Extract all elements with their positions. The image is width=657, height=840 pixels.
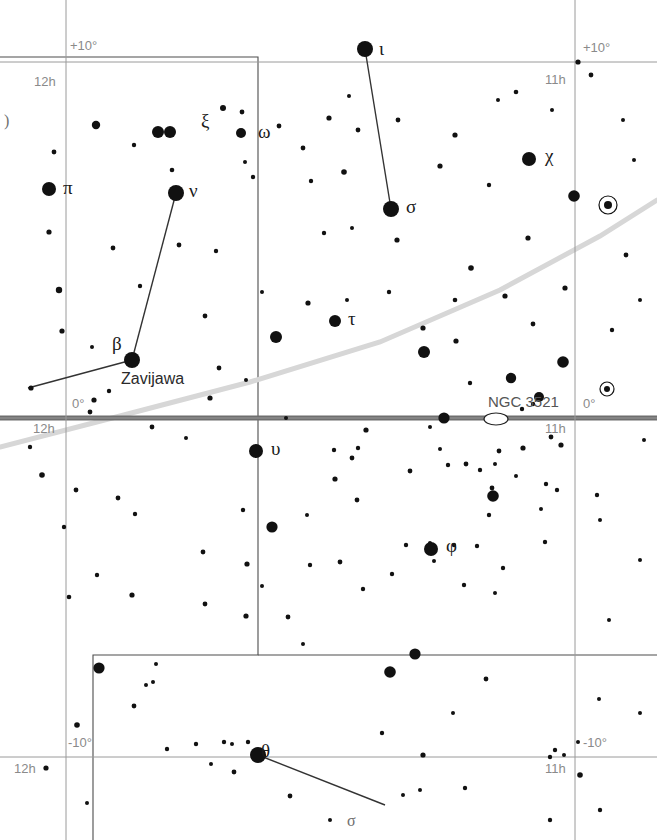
field-star [28,385,33,390]
field-star [244,561,249,566]
field-star [277,124,282,129]
field-star [493,462,497,466]
field-star [642,438,646,442]
field-star [475,544,479,548]
grid-label-dec-plus10-left: +10° [70,38,97,53]
constellation-line [258,755,385,805]
field-star [562,753,566,757]
field-star [555,488,559,492]
field-star [138,284,142,288]
field-star [207,395,212,400]
field-star [576,740,580,744]
field-star [484,677,489,682]
field-star [487,513,491,517]
field-star [595,493,599,497]
field-star [607,618,611,622]
variable-star-dot [604,386,610,392]
field-star [111,246,116,251]
field-star [438,447,442,451]
field-star [506,373,516,383]
star-chart: +10°+10°12h11h0°0°12h11h-10°-10°12h11h ι… [0,0,657,840]
field-star [401,793,405,797]
field-star [553,748,557,752]
named-star-chi [522,152,536,166]
field-star [59,328,64,333]
field-star [478,468,482,472]
field-star [577,772,583,778]
field-star [384,666,396,678]
field-star [107,389,111,393]
field-star [91,397,96,402]
field-star [62,525,66,529]
field-star [326,115,331,120]
field-star [260,584,264,588]
field-star [93,662,104,673]
field-stars [28,59,646,822]
field-star [610,328,614,332]
field-star [284,416,288,420]
field-star [243,160,247,164]
field-star [347,94,351,98]
field-star [557,356,569,368]
field-star [493,591,497,595]
field-star [240,110,245,115]
star-label-sigma: σ [406,196,416,218]
constellation-line [132,193,176,360]
grid-label-ra-12h-bottom: 12h [14,761,36,776]
field-star [520,445,525,450]
field-star [154,662,158,666]
field-star [203,602,208,607]
field-star [305,300,310,305]
field-star [74,488,79,493]
field-star [338,560,343,565]
star-label-chi: χ [545,145,553,167]
star-label-phi: φ [446,535,457,557]
field-star [246,740,250,744]
field-star [152,126,164,138]
field-star [451,711,455,715]
field-star [638,298,642,302]
field-star [363,427,368,432]
dso-label-ngc3521: NGC 3521 [488,393,559,410]
field-star [432,559,436,563]
field-star [266,521,277,532]
field-star [28,445,32,449]
field-star [356,446,360,450]
field-star [638,711,642,715]
grid-label-dec-plus10-right: +10° [583,40,610,55]
field-star [394,237,399,242]
star-label-pi: π [63,177,73,199]
field-star [132,704,137,709]
field-star [151,680,155,684]
field-star [184,436,188,440]
grid-label-ra-11h-bottom: 11h [545,761,566,776]
star-label-xi: ξ [201,110,209,132]
field-star [589,73,594,78]
field-star [632,158,636,162]
field-star [453,298,458,303]
field-star [548,755,552,759]
field-star [438,412,449,423]
field-star [624,253,629,258]
field-star [217,366,222,371]
field-star [251,175,255,179]
field-star [638,558,642,562]
field-star [286,615,291,620]
field-star [514,90,519,95]
field-star [230,742,234,746]
field-star [332,448,336,452]
field-star [270,331,282,343]
field-star [387,290,391,294]
grid-label-dec-minus10-left: -10° [68,735,92,750]
field-star [544,482,548,486]
field-star [150,425,155,430]
proper-name-zavijava: Zavijawa [121,370,184,388]
constellation-boundary [0,57,258,840]
field-star [220,105,226,111]
sky-canvas [0,0,657,840]
field-star [462,583,466,587]
field-star [525,235,530,240]
field-star [244,378,248,382]
field-star [241,508,245,512]
field-star [67,595,72,600]
